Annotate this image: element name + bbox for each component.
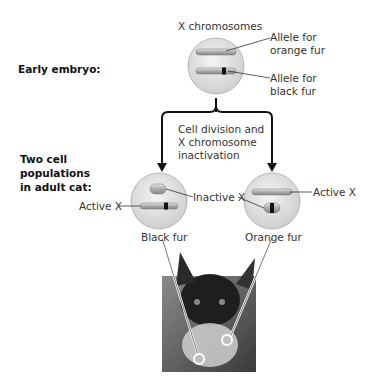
- left-cell: [118, 173, 193, 229]
- adult-label-line3: in adult cat:: [20, 180, 92, 194]
- process-label-1: Cell division and: [178, 123, 264, 136]
- inactive-x-label: Inactive X: [193, 191, 245, 204]
- left-active-x-label: Active X: [79, 200, 122, 213]
- early-embryo-cell: [188, 38, 270, 94]
- x-chromosomes-label: X chromosomes: [178, 20, 262, 33]
- orange-fur-label: Orange fur: [245, 231, 302, 244]
- process-label-3: inactivation: [178, 149, 240, 162]
- process-label-2: X chromosome: [178, 136, 257, 149]
- adult-label-line1: Two cell: [20, 152, 67, 166]
- black-allele-label-2: black fur: [270, 85, 316, 98]
- right-cell: [238, 173, 312, 229]
- black-allele-label-1: Allele for: [270, 72, 317, 85]
- orange-allele-label-2: orange fur: [270, 44, 325, 57]
- black-fur-label: Black fur: [141, 231, 187, 244]
- adult-label-line2: populations: [20, 166, 90, 180]
- arrow-left-icon: [157, 163, 167, 172]
- early-embryo-label: Early embryo:: [18, 62, 101, 76]
- orange-allele-label-1: Allele for: [270, 31, 317, 44]
- right-active-x-label: Active X: [313, 186, 356, 199]
- arrow-right-icon: [267, 163, 277, 172]
